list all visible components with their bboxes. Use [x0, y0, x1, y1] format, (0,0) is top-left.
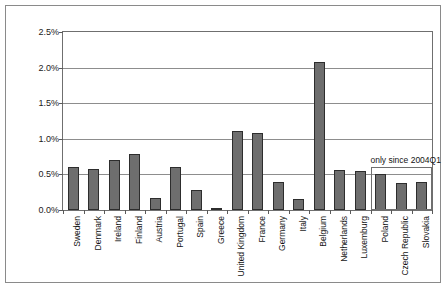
- x-tick-label: Spain: [196, 216, 205, 238]
- bar-slot: [166, 32, 187, 210]
- x-tick-mark: [186, 210, 187, 214]
- x-tick-label: France: [258, 216, 267, 242]
- x-tick-label: Greece: [217, 216, 226, 244]
- x-tick-mark: [84, 210, 85, 214]
- y-tick-label: 1.0%: [38, 134, 59, 143]
- annotation-label: only since 2004Q1: [371, 156, 441, 165]
- bar[interactable]: [334, 170, 345, 210]
- chart-figure: Share [%] 0.0%0.5%1.0%1.5%2.0%2.5% Swede…: [5, 5, 441, 283]
- x-tick-mark: [125, 210, 126, 214]
- bar[interactable]: [232, 131, 243, 210]
- x-tick-label: Czech Republic: [401, 216, 410, 276]
- bar-slot: [207, 32, 228, 210]
- x-tick-label: Germany: [278, 216, 287, 251]
- bar-slot: [104, 32, 125, 210]
- x-tick-mark: [145, 210, 146, 214]
- y-tick-label: 2.5%: [38, 28, 59, 37]
- plot-area: 0.0%0.5%1.0%1.5%2.0%2.5% SwedenDenmarkIr…: [62, 31, 433, 211]
- x-tick-label: Belgium: [319, 216, 328, 247]
- x-tick-mark: [330, 210, 331, 214]
- bar[interactable]: [191, 190, 202, 210]
- y-tick-label: 0.5%: [38, 170, 59, 179]
- y-tick-label: 2.0%: [38, 63, 59, 72]
- x-tick-mark: [63, 210, 64, 214]
- bar-slot: [186, 32, 207, 210]
- bar[interactable]: [252, 133, 263, 210]
- x-tick-mark: [227, 210, 228, 214]
- x-tick-label: Sweden: [73, 216, 82, 247]
- x-tick-label: Ireland: [114, 216, 123, 242]
- bar-slot: [63, 32, 84, 210]
- x-tick-label: Luxemburg: [360, 216, 369, 259]
- bar-slot: [330, 32, 351, 210]
- bar[interactable]: [68, 167, 79, 210]
- annotation-box: [371, 167, 433, 210]
- x-tick-mark: [391, 210, 392, 214]
- bar[interactable]: [293, 199, 304, 210]
- bar[interactable]: [314, 62, 325, 210]
- x-tick-mark: [268, 210, 269, 214]
- x-tick-mark: [166, 210, 167, 214]
- bar[interactable]: [355, 171, 366, 210]
- bar-slot: [248, 32, 269, 210]
- bar[interactable]: [129, 154, 140, 210]
- y-tick-label: 1.5%: [38, 99, 59, 108]
- bar[interactable]: [88, 169, 99, 210]
- bar[interactable]: [273, 182, 284, 210]
- x-tick-label: Italy: [299, 216, 308, 232]
- bar[interactable]: [211, 208, 222, 210]
- x-tick-label: Portugal: [176, 216, 185, 248]
- x-tick-mark: [432, 210, 433, 214]
- bar-slot: [84, 32, 105, 210]
- x-tick-mark: [207, 210, 208, 214]
- bar[interactable]: [109, 160, 120, 210]
- y-tick-label: 0.0%: [38, 206, 59, 215]
- x-tick-mark: [248, 210, 249, 214]
- bar-slot: [350, 32, 371, 210]
- x-tick-label: Finland: [135, 216, 144, 244]
- bar-slot: [268, 32, 289, 210]
- bar[interactable]: [150, 198, 161, 210]
- x-tick-mark: [412, 210, 413, 214]
- bar-slot: [289, 32, 310, 210]
- x-tick-label: Slovakia: [422, 216, 431, 248]
- x-tick-label: United Kingdom: [237, 216, 246, 276]
- x-tick-label: Denmark: [94, 216, 103, 250]
- bar-slot: [309, 32, 330, 210]
- bar[interactable]: [170, 167, 181, 210]
- x-tick-label: Netherlands: [340, 216, 349, 262]
- x-tick-label: Poland: [381, 216, 390, 242]
- x-tick-mark: [289, 210, 290, 214]
- x-tick-mark: [309, 210, 310, 214]
- bar-slot: [145, 32, 166, 210]
- x-tick-mark: [350, 210, 351, 214]
- x-tick-mark: [104, 210, 105, 214]
- x-tick-label: Austria: [155, 216, 164, 242]
- bar-slot: [125, 32, 146, 210]
- bar-slot: [227, 32, 248, 210]
- x-tick-mark: [371, 210, 372, 214]
